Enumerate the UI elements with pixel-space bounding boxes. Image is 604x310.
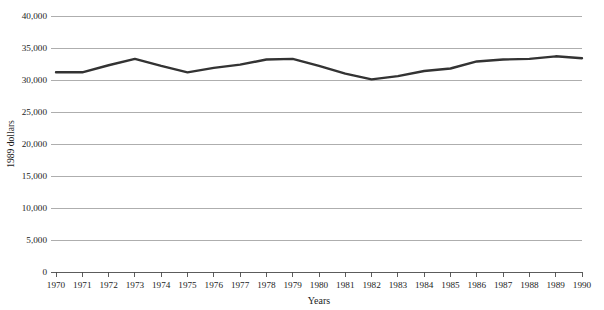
x-tick-label: 1973 — [126, 280, 145, 290]
y-tick-label: 20,000 — [22, 139, 48, 149]
y-tick-label: 30,000 — [22, 75, 48, 85]
x-tick-label: 1979 — [284, 280, 303, 290]
x-tick-label: 1972 — [99, 280, 118, 290]
x-axis-tick-labels: 1970197119721973197419751976197719781979… — [47, 280, 592, 290]
x-tick-label: 1982 — [362, 280, 381, 290]
x-tick-label: 1974 — [152, 280, 171, 290]
y-tick-label: 0 — [42, 267, 47, 277]
y-tick-label: 15,000 — [22, 171, 48, 181]
chart-background — [0, 0, 604, 310]
line-chart: 05,00010,00015,00020,00025,00030,00035,0… — [0, 0, 604, 310]
y-tick-label: 40,000 — [22, 11, 48, 21]
x-tick-label: 1980 — [310, 280, 329, 290]
x-axis-tick-marks — [56, 272, 582, 277]
chart-container: 05,00010,00015,00020,00025,00030,00035,0… — [0, 0, 604, 310]
y-axis-title: 1989 dollars — [5, 120, 16, 168]
x-tick-label: 1987 — [494, 280, 513, 290]
x-tick-label: 1970 — [47, 280, 66, 290]
y-tick-label: 35,000 — [22, 43, 48, 53]
x-tick-label: 1985 — [441, 280, 460, 290]
x-tick-label: 1989 — [547, 280, 566, 290]
x-tick-label: 1978 — [257, 280, 276, 290]
x-tick-label: 1986 — [468, 280, 487, 290]
y-axis-tick-labels: 05,00010,00015,00020,00025,00030,00035,0… — [22, 11, 48, 277]
x-tick-label: 1990 — [573, 280, 592, 290]
y-tick-label: 10,000 — [22, 203, 48, 213]
x-tick-label: 1975 — [178, 280, 197, 290]
x-tick-label: 1977 — [231, 280, 250, 290]
x-tick-label: 1983 — [389, 280, 408, 290]
x-tick-label: 1981 — [336, 280, 355, 290]
x-tick-label: 1971 — [73, 280, 92, 290]
y-tick-label: 5,000 — [26, 235, 47, 245]
y-tick-label: 25,000 — [22, 107, 48, 117]
x-tick-label: 1984 — [415, 280, 434, 290]
x-tick-label: 1988 — [520, 280, 539, 290]
x-axis-title: Years — [308, 295, 330, 306]
x-tick-label: 1976 — [205, 280, 224, 290]
